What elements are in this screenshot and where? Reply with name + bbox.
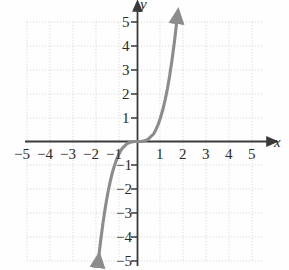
x-tick-label-4: 4 [225,147,233,162]
y-tick-label-neg3: −3 [116,206,132,221]
y-tick-label-neg5: −5 [116,254,132,269]
y-tick-label-5: 5 [122,15,130,30]
y-tick-label-2: 2 [122,87,130,102]
x-tick-label-neg2: −2 [83,147,99,162]
x-tick-label-1: 1 [156,147,164,162]
x-tick-label-neg5: −5 [14,147,30,162]
y-axis-label: y [140,0,147,12]
y-tick-label-1: 1 [122,111,130,126]
x-tick-label-2: 2 [179,147,187,162]
y-tick-label-4: 4 [122,39,130,54]
y-tick-label-neg2: −2 [116,182,132,197]
x-tick-label-3: 3 [202,147,210,162]
y-tick-label-neg4: −4 [116,230,132,245]
x-tick-label-5: 5 [248,147,256,162]
cubic-function-graph: −5 −4 −3 −2 −1 1 2 3 4 5 5 4 3 2 1 −1 −2… [0,0,289,270]
y-tick-label-neg1: −1 [116,158,132,173]
x-tick-label-neg4: −4 [37,147,53,162]
y-tick-label-3: 3 [122,63,130,78]
x-tick-label-neg3: −3 [60,147,76,162]
x-axis-label: x [274,135,281,150]
graph-canvas [0,0,289,270]
